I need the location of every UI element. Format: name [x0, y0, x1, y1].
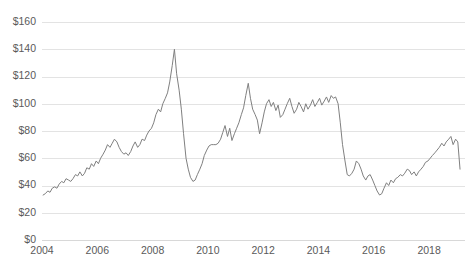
y-tick-label: $140 — [13, 42, 37, 54]
x-tick-label: 2014 — [307, 244, 331, 256]
x-tick-label: 2018 — [417, 244, 441, 256]
x-tick-label: 2012 — [251, 244, 275, 256]
y-tick-label: $20 — [18, 206, 36, 218]
data-series-group — [43, 49, 460, 195]
y-tick-label: $60 — [18, 151, 36, 163]
x-tick-label: 2016 — [362, 244, 386, 256]
y-tick-label: $160 — [13, 15, 37, 27]
y-tick-label: $100 — [13, 97, 37, 109]
gridlines-group — [42, 23, 465, 241]
price-line-chart: $0$20$40$60$80$100$120$140$160 200420062… — [0, 0, 476, 273]
x-tick-label: 2004 — [30, 244, 54, 256]
x-axis-tick-labels: 20042006200820102012201420162018 — [30, 244, 441, 256]
x-tick-label: 2006 — [86, 244, 110, 256]
y-tick-label: $0 — [24, 233, 36, 245]
data-line-price — [43, 49, 460, 195]
y-tick-label: $120 — [13, 69, 37, 81]
y-tick-label: $80 — [18, 124, 36, 136]
x-tick-label: 2008 — [141, 244, 165, 256]
y-axis-tick-labels: $0$20$40$60$80$100$120$140$160 — [13, 15, 37, 245]
chart-canvas: $0$20$40$60$80$100$120$140$160 200420062… — [0, 0, 476, 273]
y-tick-label: $40 — [18, 178, 36, 190]
x-tick-label: 2010 — [196, 244, 220, 256]
